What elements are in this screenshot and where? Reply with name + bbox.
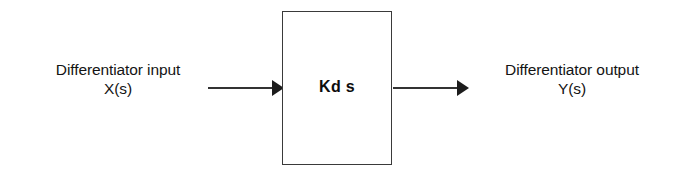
block-diagram: Differentiator input X(s) Kd s Different… xyxy=(0,0,686,180)
output-arrow xyxy=(393,80,471,96)
output-label-line1: Differentiator output xyxy=(470,60,674,79)
output-arrow-shaft xyxy=(393,87,459,89)
input-label-line1: Differentiator input xyxy=(20,60,216,79)
output-signal-label: Differentiator output Y(s) xyxy=(470,60,674,98)
input-arrow-shaft xyxy=(208,87,274,89)
output-label-line2: Y(s) xyxy=(470,79,674,98)
input-arrow xyxy=(208,80,284,96)
transfer-function-block: Kd s xyxy=(282,11,392,165)
output-arrowhead-icon xyxy=(457,80,469,96)
input-signal-label: Differentiator input X(s) xyxy=(20,60,216,98)
transfer-function-label: Kd s xyxy=(283,78,391,96)
input-label-line2: X(s) xyxy=(20,79,216,98)
